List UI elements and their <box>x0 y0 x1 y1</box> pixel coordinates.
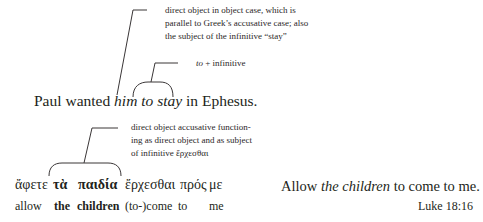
scripture-reference: Luke 18:16 <box>418 199 473 213</box>
annotation-italic-to: to <box>196 58 203 68</box>
annotation-accusative: direct object accusative function- ing a… <box>131 121 252 160</box>
translation-after: to come to me. <box>390 178 480 194</box>
annotation-infinitive-text: + infinitive <box>203 58 246 68</box>
translation-the-children: the children <box>321 178 390 194</box>
gloss-allow: allow <box>15 199 42 213</box>
greek-word-me: με <box>209 176 222 194</box>
sentence-after: in Ephesus. <box>182 92 257 109</box>
gloss-children: children <box>77 199 119 213</box>
sentence-to-stay: to stay <box>141 92 182 109</box>
english-example-sentence: Paul wanted him to stay in Ephesus. <box>34 92 257 110</box>
leader-line-to-stay <box>151 63 178 82</box>
gloss-the: the <box>54 199 70 213</box>
gloss-to: to <box>178 199 187 213</box>
annotation-to-infinitive: to + infinitive <box>196 57 246 70</box>
gloss-to-come: (to-)come <box>125 199 172 213</box>
gloss-me: me <box>209 199 224 213</box>
translation-before: Allow <box>281 178 321 194</box>
annotation-line: the subject of the infinitive “stay” <box>165 30 308 43</box>
gloss-row: allow the children (to-)come to me <box>0 199 240 213</box>
greek-word-aphete: ἄφετε <box>15 176 48 194</box>
greek-word-pros: πρός <box>180 176 207 194</box>
annotation-line: parallel to Greek’s accusative case; als… <box>165 17 308 30</box>
annotation-line: of infinitive ἔρχεσθαι <box>131 147 252 160</box>
greek-word-erchesthai: ἔρχεσθαι <box>125 176 175 194</box>
greek-word-ta: τὰ <box>53 176 67 194</box>
sentence-him: him <box>114 92 137 109</box>
greek-word-paidia: παιδία <box>78 176 117 194</box>
annotation-line: direct object in object case, which is <box>165 4 308 17</box>
sentence-before: Paul wanted <box>34 92 114 109</box>
annotation-direct-object: direct object in object case, which is p… <box>165 4 308 43</box>
leader-line-ta-paidia <box>84 128 118 163</box>
annotation-line: ing as direct object and as subject <box>131 134 252 147</box>
bracket-ta-paidia <box>49 163 121 176</box>
english-translation: Allow the children to come to me. <box>281 177 480 195</box>
greek-text-row: ἄφετε τὰ παιδία ἔρχεσθαι πρός με <box>0 176 240 194</box>
annotation-line: direct object accusative function- <box>131 121 252 134</box>
